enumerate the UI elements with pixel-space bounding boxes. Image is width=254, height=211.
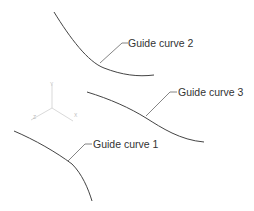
triad-x-label: X [74, 112, 78, 118]
triad-z-label: Z [33, 114, 36, 120]
guide-curve-3-label: Guide curve 3 [178, 86, 243, 98]
guide-curve-2-label: Guide curve 2 [128, 37, 193, 49]
leader-line-2 [100, 43, 128, 63]
triad-y-label: Y [50, 81, 54, 87]
guide-curve-1 [14, 131, 92, 201]
guide-curve-3 [87, 92, 204, 142]
diagram-canvas: Y X Z [0, 0, 254, 211]
guide-curve-1-label: Guide curve 1 [93, 138, 158, 150]
axis-triad-icon [31, 84, 73, 121]
leader-line-1 [68, 144, 92, 161]
leader-line-3 [146, 92, 177, 116]
